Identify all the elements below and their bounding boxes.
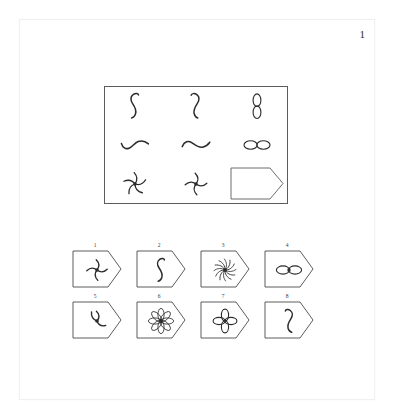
answer-option-3-label: 3 [200, 243, 246, 249]
answer-option-6-label: 6 [136, 294, 182, 300]
answer-option-2-tag-shape [136, 250, 194, 290]
answer-option-6[interactable]: 6 [136, 294, 194, 341]
answer-options-row-1: 1 [72, 243, 322, 290]
answer-option-4[interactable]: 4 [264, 243, 322, 290]
matrix-cell-r3c3-answer-slot[interactable] [226, 164, 287, 203]
answer-option-1[interactable]: 1 [72, 243, 130, 290]
vertical-figure-eight-two-lobes-icon [250, 92, 264, 120]
vertical-squiggle-s-curve-icon [127, 92, 143, 120]
answer-option-5-label: 5 [72, 294, 118, 300]
answer-option-1-label: 1 [72, 243, 118, 249]
answer-option-4-label: 4 [264, 243, 310, 249]
answer-option-3[interactable]: 3 [200, 243, 258, 290]
item-number-label: 1 [360, 29, 366, 40]
matrix-cell-r3c1 [105, 164, 166, 203]
answer-option-8[interactable]: 8 [264, 294, 322, 341]
answer-option-3-tag-shape [200, 250, 258, 290]
test-page: 1 [0, 0, 395, 419]
pinwheel-five-arms-icon [120, 169, 150, 199]
matrix-cell-r2c3 [226, 126, 287, 165]
answer-option-1-tag-shape [72, 250, 130, 290]
answer-option-6-tag-shape [136, 301, 194, 341]
answer-options-row-2: 5 [72, 294, 322, 341]
answer-option-5-tag-shape [72, 301, 130, 341]
matrix-cell-r2c2 [166, 126, 227, 165]
answer-option-7-label: 7 [200, 294, 246, 300]
matrix-cell-r3c2 [166, 164, 227, 203]
answer-option-2-label: 2 [136, 243, 182, 249]
horizontal-infinity-two-lobes-icon [242, 138, 272, 152]
answer-option-7-tag-shape [200, 301, 258, 341]
answer-option-4-tag-shape [264, 250, 322, 290]
pinwheel-four-arms-icon [182, 170, 210, 198]
horizontal-wave-tilde-icon [180, 138, 212, 152]
matrix-cell-r1c2 [166, 87, 227, 126]
answer-option-2[interactable]: 2 [136, 243, 194, 290]
matrix-cell-r1c3 [226, 87, 287, 126]
matrix-cell-r2c1 [105, 126, 166, 165]
answer-option-7[interactable]: 7 [200, 294, 258, 341]
matrix-grid [105, 87, 287, 203]
empty-answer-slot-tag-outline-icon [230, 167, 284, 200]
answer-option-8-label: 8 [264, 294, 310, 300]
horizontal-wave-thick-tail-icon [119, 138, 151, 152]
matrix-cell-r1c1 [105, 87, 166, 126]
answer-option-5[interactable]: 5 [72, 294, 130, 341]
answer-options-panel: 1 [72, 243, 322, 345]
matrix-problem-box [104, 86, 288, 204]
answer-option-8-tag-shape [264, 301, 322, 341]
vertical-squiggle-reversed-icon [188, 92, 203, 120]
